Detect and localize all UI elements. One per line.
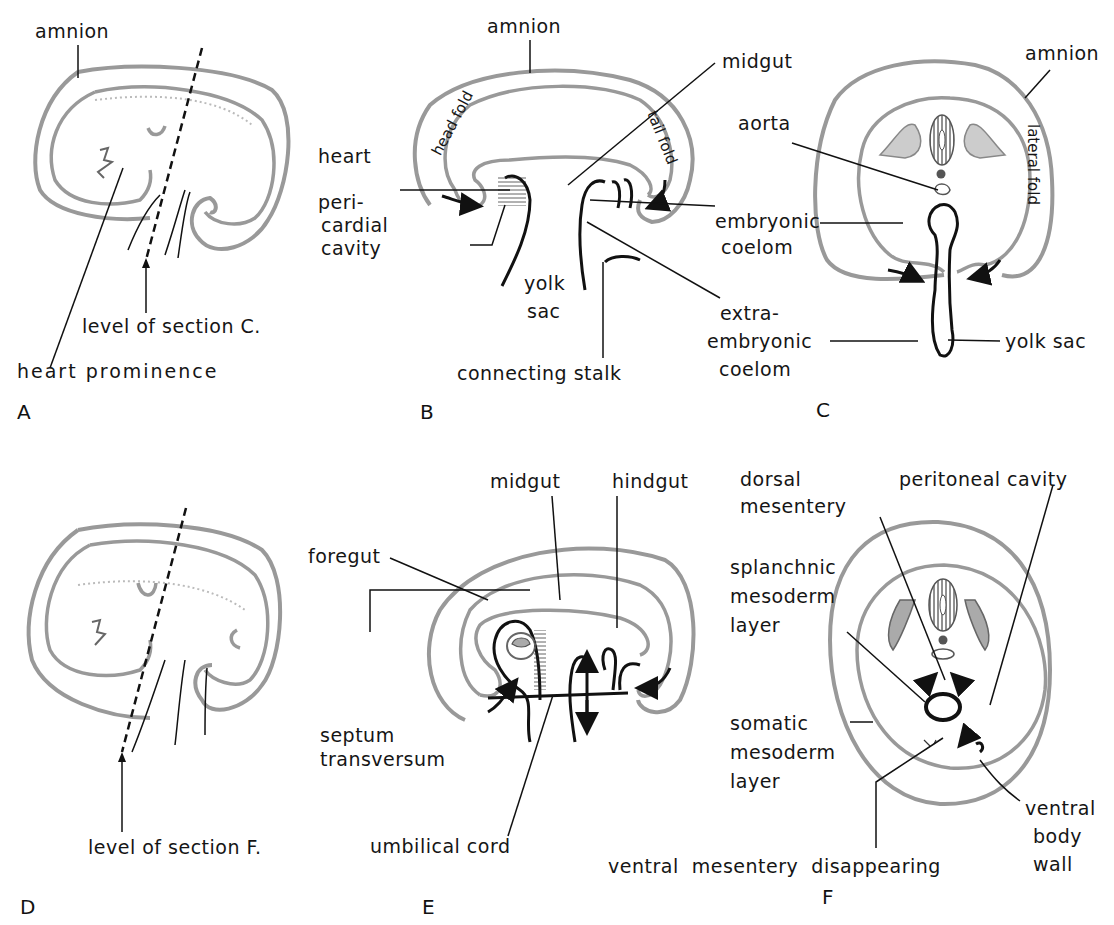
label-b-midgut: midgut: [722, 50, 792, 72]
label-b-heart: heart: [318, 145, 371, 167]
label-e-foregut: foregut: [308, 545, 380, 567]
panel-label-b: B: [420, 400, 434, 424]
label-b-amnion: amnion: [487, 15, 561, 37]
label-c-yolk-sac: yolk sac: [1005, 330, 1086, 352]
label-a-heart-prominence: heart prominence: [17, 360, 218, 382]
panel-label-f: F: [822, 885, 834, 909]
label-f-body: body: [1033, 825, 1082, 847]
label-e-septum: septum: [320, 724, 395, 746]
label-e-midgut: midgut: [490, 470, 560, 492]
label-f-wall: wall: [1033, 853, 1073, 875]
label-f-mesentery: mesentery: [740, 495, 847, 517]
label-c-coelom: coelom: [721, 236, 793, 258]
label-f-dorsal: dorsal: [740, 468, 801, 490]
label-e-umbilical-cord: umbilical cord: [370, 835, 510, 857]
label-a-level-of-section-c: level of section C.: [82, 315, 261, 337]
label-c-extra: extra-: [720, 302, 779, 324]
panel-d-drawing: [29, 508, 280, 832]
label-b-pericardial-1: peri-: [318, 191, 364, 213]
label-f-ventral-mesentery-disappearing: ventral mesentery disappearing: [608, 855, 941, 877]
label-f-layer-2: layer: [730, 770, 780, 792]
label-b-yolk: yolk: [524, 272, 565, 294]
label-c-aorta: aorta: [738, 112, 791, 134]
label-f-somatic: somatic: [730, 712, 808, 734]
label-c-coelom-2: coelom: [719, 358, 791, 380]
label-c-lateral-fold: lateral fold: [1024, 124, 1042, 205]
label-b-sac: sac: [527, 300, 561, 322]
label-f-splanchnic: splanchnic: [730, 556, 836, 578]
label-b-pericardial-2: cardial: [321, 214, 388, 236]
label-f-ventral: ventral: [1025, 797, 1096, 819]
panel-c-drawing: [792, 61, 1052, 356]
label-a-amnion: amnion: [35, 20, 109, 42]
label-c-embryonic-2: embryonic: [707, 330, 812, 352]
panel-label-e: E: [422, 895, 435, 919]
label-f-peritoneal-cavity: peritoneal cavity: [899, 468, 1067, 490]
label-c-amnion: amnion: [1025, 42, 1099, 64]
label-f-layer-1: layer: [730, 614, 780, 636]
label-d-level-of-section-f: level of section F.: [88, 836, 261, 858]
panel-f-drawing: [830, 485, 1053, 848]
label-b-pericardial-3: cavity: [321, 237, 381, 259]
embryo-folding-diagram: [0, 0, 1114, 925]
label-f-mesoderm-1: mesoderm: [730, 585, 835, 607]
label-c-embryonic: embryonic: [715, 210, 820, 232]
panel-label-a: A: [17, 400, 31, 424]
panel-label-c: C: [816, 398, 830, 422]
label-e-transversum: transversum: [320, 748, 446, 770]
panel-label-d: D: [20, 895, 35, 919]
label-e-hindgut: hindgut: [612, 470, 688, 492]
label-f-mesoderm-2: mesoderm: [730, 741, 835, 763]
label-b-connecting-stalk: connecting stalk: [457, 362, 621, 384]
panel-e-drawing: [370, 496, 694, 836]
